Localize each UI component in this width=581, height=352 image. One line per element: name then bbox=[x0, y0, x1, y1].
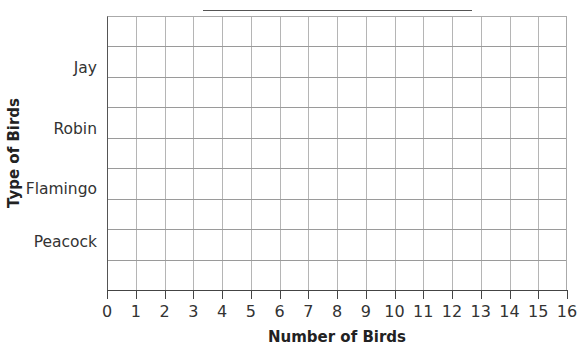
x-tick bbox=[481, 290, 482, 299]
grid-vline bbox=[423, 17, 424, 290]
category-label-flamingo: Flamingo bbox=[26, 180, 97, 198]
grid-hline bbox=[108, 77, 566, 78]
x-tick-label: 7 bbox=[293, 302, 323, 321]
x-tick bbox=[107, 290, 108, 299]
y-axis-title: Type of Birds bbox=[5, 98, 23, 208]
title-blank-line bbox=[203, 10, 472, 11]
x-tick bbox=[251, 290, 252, 299]
x-tick-label: 1 bbox=[121, 302, 151, 321]
grid-hline bbox=[108, 260, 566, 261]
grid-hline bbox=[108, 138, 566, 139]
grid-hline bbox=[108, 107, 566, 108]
x-tick-label: 10 bbox=[380, 302, 410, 321]
grid-vline bbox=[538, 17, 539, 290]
x-tick-label: 5 bbox=[236, 302, 266, 321]
x-tick bbox=[193, 290, 194, 299]
x-tick-label: 16 bbox=[552, 302, 581, 321]
x-tick bbox=[337, 290, 338, 299]
grid-vline bbox=[165, 17, 166, 290]
grid-vline bbox=[510, 17, 511, 290]
grid-vline bbox=[308, 17, 309, 290]
plot-grid bbox=[107, 16, 567, 290]
grid-vline bbox=[136, 17, 137, 290]
x-tick bbox=[423, 290, 424, 299]
x-tick-label: 2 bbox=[150, 302, 180, 321]
category-label-robin: Robin bbox=[53, 120, 97, 138]
x-tick bbox=[222, 290, 223, 299]
category-label-jay: Jay bbox=[74, 59, 97, 77]
grid-hline bbox=[108, 168, 566, 169]
x-tick bbox=[165, 290, 166, 299]
grid-vline bbox=[395, 17, 396, 290]
grid-hline bbox=[108, 229, 566, 230]
grid-hline bbox=[108, 46, 566, 47]
x-tick-label: 14 bbox=[495, 302, 525, 321]
x-axis-title: Number of Birds bbox=[237, 328, 437, 346]
x-tick-label: 11 bbox=[408, 302, 438, 321]
x-tick-label: 12 bbox=[437, 302, 467, 321]
grid-vline bbox=[222, 17, 223, 290]
x-tick bbox=[510, 290, 511, 299]
x-tick-label: 8 bbox=[322, 302, 352, 321]
grid-vline bbox=[193, 17, 194, 290]
grid-vline bbox=[452, 17, 453, 290]
x-tick bbox=[452, 290, 453, 299]
x-tick bbox=[567, 290, 568, 299]
grid-hline bbox=[108, 199, 566, 200]
grid-vline bbox=[337, 17, 338, 290]
grid-vline bbox=[481, 17, 482, 290]
grid-vline bbox=[280, 17, 281, 290]
x-tick-label: 4 bbox=[207, 302, 237, 321]
x-tick bbox=[280, 290, 281, 299]
x-tick bbox=[366, 290, 367, 299]
grid-vline bbox=[366, 17, 367, 290]
x-tick-label: 6 bbox=[265, 302, 295, 321]
x-tick-label: 9 bbox=[351, 302, 381, 321]
x-tick bbox=[136, 290, 137, 299]
x-tick bbox=[395, 290, 396, 299]
grid-vline bbox=[251, 17, 252, 290]
x-tick-label: 15 bbox=[523, 302, 553, 321]
x-tick bbox=[308, 290, 309, 299]
x-tick bbox=[538, 290, 539, 299]
x-tick-label: 3 bbox=[178, 302, 208, 321]
x-tick-label: 0 bbox=[92, 302, 122, 321]
category-label-peacock: Peacock bbox=[34, 233, 97, 251]
x-tick-label: 13 bbox=[466, 302, 496, 321]
